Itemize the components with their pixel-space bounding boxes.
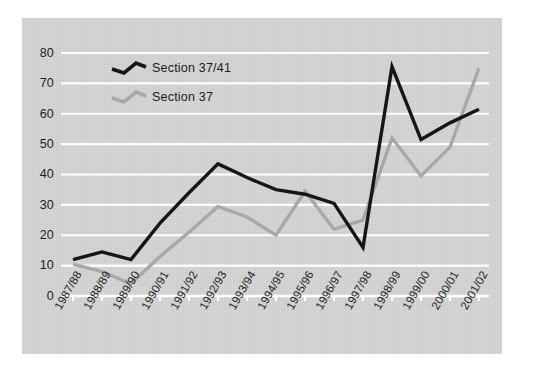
y-tick-label: 60 [30,108,54,121]
legend-marker-section-37-41 [112,63,146,73]
legend-marker-section-37 [112,92,146,102]
legend-label-section-37-41: Section 37/41 [152,61,231,75]
y-tick-label: 0 [30,290,54,303]
y-tick-label: 30 [30,199,54,212]
y-tick-label: 20 [30,229,54,242]
y-tick-label: 70 [30,77,54,90]
y-tick-label: 50 [30,138,54,151]
y-tick-label: 80 [30,47,54,60]
chart-plot-area [0,0,534,379]
legend-label-section-37: Section 37 [152,90,213,104]
y-tick-label: 40 [30,168,54,181]
y-tick-label: 10 [30,259,54,272]
chart-figure: 80 70 60 50 40 30 20 10 0 1987/88 1988/8… [0,0,534,379]
series-line-section-37 [73,68,479,284]
